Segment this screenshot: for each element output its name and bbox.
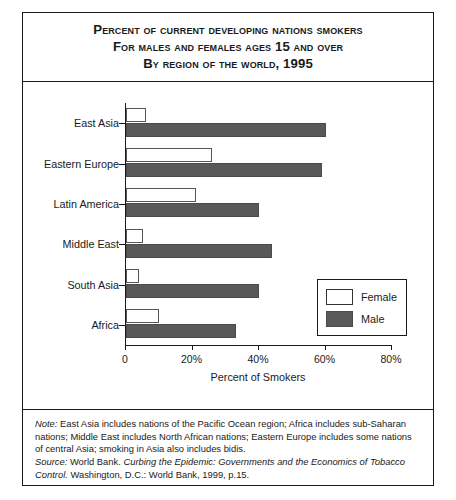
title-line-2: for Males and Females Ages 15 and Over: [33, 38, 423, 55]
category-tick: [119, 285, 125, 286]
source-imprint: Washington, D.C.: World Bank, 1999, p.15…: [68, 469, 249, 480]
category-tick: [119, 204, 125, 205]
x-tick-label: 0: [122, 353, 128, 365]
bar-male: [126, 123, 326, 137]
x-tick: [391, 345, 392, 350]
legend-swatch-female-icon: [326, 289, 353, 305]
bar-male: [126, 163, 322, 177]
category-tick: [119, 164, 125, 165]
legend-item-male: Male: [326, 309, 397, 328]
footer-rule: [23, 485, 433, 486]
bar-female: [126, 108, 146, 122]
title-line-3: by Region of the World, 1995: [33, 55, 423, 72]
category-label: Latin America: [54, 198, 119, 210]
bar-male: [126, 324, 236, 338]
note-body: East Asia includes nations of the Pacifi…: [35, 418, 412, 454]
bar-female: [126, 229, 143, 243]
chart-title: Percent of Current Developing Nations Sm…: [23, 13, 433, 82]
note-block: Note: East Asia includes nations of the …: [23, 409, 433, 456]
bar-female: [126, 309, 159, 323]
category-tick: [119, 244, 125, 245]
bar-female: [126, 188, 196, 202]
x-axis-label: Percent of Smokers: [125, 371, 391, 383]
source-publisher: World Bank.: [67, 456, 123, 467]
chart-legend: Female Male: [317, 279, 407, 336]
bar-male: [126, 284, 259, 298]
plot-area: 020%40%60%80%East AsiaEastern EuropeLati…: [23, 89, 433, 409]
category-tick: [119, 123, 125, 124]
category-label: East Asia: [74, 117, 119, 129]
x-tick-label: 20%: [181, 353, 202, 365]
bar-male: [126, 244, 272, 258]
bar-male: [126, 203, 259, 217]
x-tick: [325, 345, 326, 350]
category-label: Middle East: [63, 238, 119, 250]
x-tick-label: 40%: [247, 353, 268, 365]
bar-female: [126, 148, 212, 162]
bar-female: [126, 269, 139, 283]
x-tick-label: 80%: [380, 353, 401, 365]
title-line-1: Percent of Current Developing Nations Sm…: [33, 21, 423, 38]
x-tick: [125, 345, 126, 350]
legend-swatch-male-icon: [326, 311, 353, 327]
legend-item-female: Female: [326, 287, 397, 306]
x-tick: [192, 345, 193, 350]
source-text: Source: World Bank. Curbing the Epidemic…: [35, 456, 421, 481]
legend-label-female: Female: [361, 291, 397, 303]
category-label: Africa: [91, 319, 119, 331]
x-tick-label: 60%: [314, 353, 335, 365]
category-label: South Asia: [67, 279, 119, 291]
note-text: Note: East Asia includes nations of the …: [35, 418, 421, 456]
note-lead: Note:: [35, 418, 57, 429]
source-lead: Source:: [35, 456, 67, 467]
legend-label-male: Male: [361, 313, 384, 325]
source-block: Source: World Bank. Curbing the Epidemic…: [23, 456, 433, 481]
category-label: Eastern Europe: [44, 158, 119, 170]
category-tick: [119, 325, 125, 326]
x-tick: [258, 345, 259, 350]
figure-frame: Percent of Current Developing Nations Sm…: [22, 12, 434, 486]
chart-figure: Percent of Current Developing Nations Sm…: [0, 0, 456, 500]
